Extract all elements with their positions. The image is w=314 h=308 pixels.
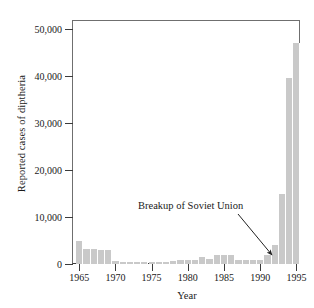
bar	[206, 259, 213, 264]
x-tick-label: 1985	[214, 272, 234, 283]
chart-figure: Reported cases of diptheria 010,00020,00…	[0, 0, 314, 308]
bar-series	[72, 20, 300, 264]
bar	[156, 262, 163, 264]
bar	[127, 262, 134, 264]
y-tick-label: 0	[57, 259, 62, 270]
x-tick-label: 1975	[142, 272, 162, 283]
bar	[250, 260, 257, 264]
y-tick-label: 40,000	[35, 71, 63, 82]
x-tick-mark	[224, 264, 225, 271]
y-tick-mark	[65, 264, 73, 265]
x-tick-label: 1965	[69, 272, 89, 283]
bar	[149, 262, 156, 264]
y-tick-label: 30,000	[35, 118, 63, 129]
bar	[257, 260, 264, 264]
x-tick-mark	[188, 264, 189, 271]
bar	[105, 250, 112, 264]
bar	[83, 249, 90, 264]
bar	[235, 260, 242, 264]
y-axis-title: Reported cases of diptheria	[16, 34, 27, 234]
bar	[272, 245, 279, 264]
bar	[141, 262, 148, 264]
x-tick-mark	[115, 264, 116, 271]
bar	[286, 78, 293, 264]
x-tick-label: 1995	[286, 272, 306, 283]
bar	[177, 260, 184, 264]
bar	[214, 255, 221, 264]
bar	[199, 257, 206, 264]
annotation-label: Breakup of Soviet Union	[138, 200, 243, 211]
x-tick-mark	[296, 264, 297, 271]
bar	[98, 250, 105, 264]
x-tick-label: 1980	[178, 272, 198, 283]
bar	[221, 255, 228, 264]
x-axis-title: Year	[72, 290, 302, 301]
bar	[243, 260, 250, 264]
y-tick-label: 50,000	[35, 24, 63, 35]
x-tick-label: 1970	[105, 272, 125, 283]
bar	[163, 262, 170, 264]
bar	[228, 255, 235, 264]
bar	[112, 261, 119, 264]
bar	[264, 255, 271, 264]
y-tick-label: 10,000	[35, 212, 63, 223]
bar	[134, 262, 141, 264]
x-tick-mark	[152, 264, 153, 271]
x-tick-label: 1990	[250, 272, 270, 283]
bar	[279, 194, 286, 264]
bar	[91, 249, 98, 264]
bar	[76, 241, 83, 264]
x-tick-mark	[79, 264, 80, 271]
bar	[120, 262, 127, 264]
bar	[192, 260, 199, 264]
x-tick-mark	[260, 264, 261, 271]
y-tick-label: 20,000	[35, 165, 63, 176]
bar	[185, 260, 192, 264]
bar	[293, 43, 300, 264]
bar	[170, 261, 177, 264]
